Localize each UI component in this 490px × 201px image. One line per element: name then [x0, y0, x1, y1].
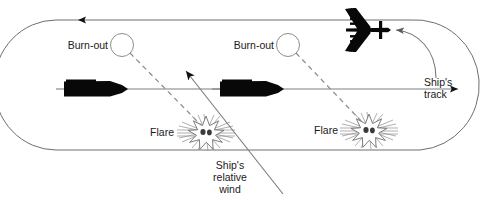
relative-wind-label-line2: relative [213, 171, 247, 183]
flare-left [177, 114, 235, 151]
ship-flare-diagram: Burn-out Burn-out Flare Flare Ship's tra… [0, 0, 490, 201]
flare-right-core-b [370, 128, 375, 134]
aircraft-engine-1 [350, 18, 362, 20]
relative-wind-label-line1: Ship's [216, 159, 244, 171]
ship-right-hull [220, 81, 284, 97]
burn-out-left-label: Burn-out [68, 39, 108, 51]
flare-left-core-b [207, 130, 212, 136]
aircraft-engine-3 [350, 35, 363, 37]
flare-left-star [188, 116, 224, 149]
diagram-canvas: Burn-out Burn-out Flare Flare Ship's tra… [0, 0, 490, 201]
ship-left-hull [64, 81, 128, 97]
aircraft-tailplane [379, 21, 382, 39]
ship-left [56, 80, 128, 97]
burn-out-right-label: Burn-out [234, 39, 274, 51]
flare-right-label: Flare [314, 124, 338, 136]
flare-right-core-a [363, 127, 368, 133]
flare-right-star [351, 114, 387, 147]
ships-track-label-line2: track [424, 88, 448, 100]
aircraft-silhouette [345, 8, 391, 52]
ship-right-superstructure [222, 80, 252, 83]
aircraft-engine-2 [350, 23, 363, 25]
ship-right [212, 80, 284, 97]
ship-left-superstructure [66, 80, 96, 83]
aircraft-approach-arrow [396, 30, 436, 78]
ships-track-label-line1: Ship's [424, 76, 452, 88]
flare-right [340, 112, 398, 149]
track-left-turn [0, 20, 56, 150]
flare-left-label: Flare [150, 126, 174, 138]
aircraft-engine-4 [350, 40, 362, 42]
relative-wind-label-line3: wind [218, 183, 241, 195]
flare-left-core-a [200, 129, 205, 135]
